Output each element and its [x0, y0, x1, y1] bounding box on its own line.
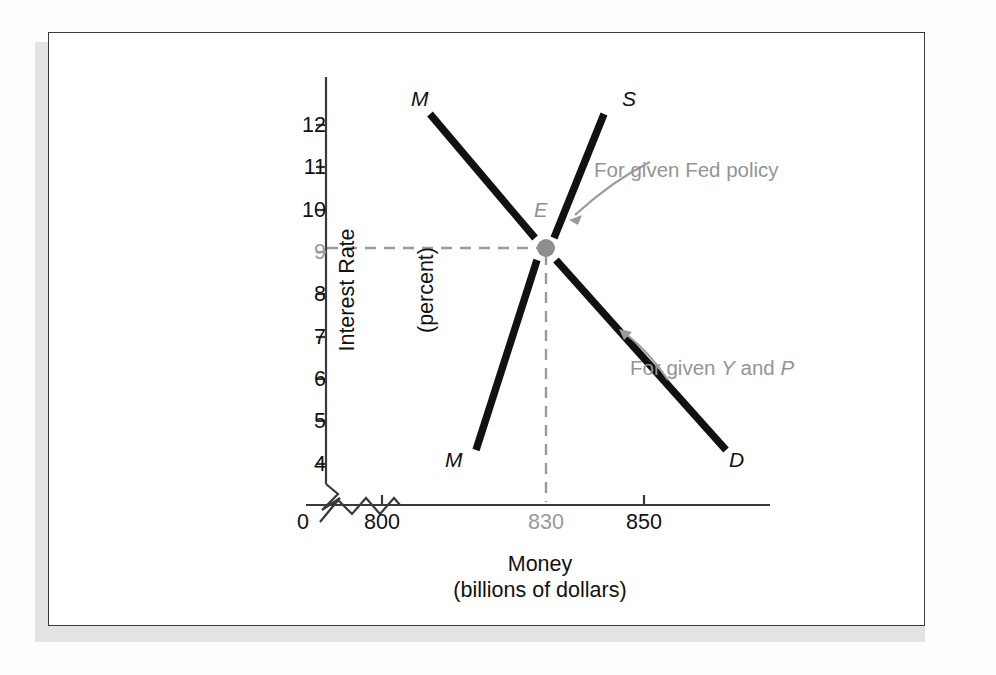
income-price-annotation-run-0: For given — [630, 356, 721, 379]
x-tick-label-830: 830 — [516, 510, 576, 535]
x-axis-ticks — [382, 495, 644, 505]
income-price-annotation-text: For given Y and P — [630, 356, 794, 380]
y-axis-title: Interest Rate (percent) — [246, 160, 528, 420]
x-origin-label: 0 — [288, 510, 318, 535]
income-price-annotation-run-2: and — [735, 356, 781, 379]
income-price-annotation-run-1: Y — [721, 356, 735, 379]
y-axis-title-main: Interest Rate — [334, 160, 360, 420]
y-tick-label-4: 4 — [288, 452, 326, 477]
y-tick-label-12: 12 — [288, 113, 326, 138]
fed-policy-arrowhead — [569, 215, 582, 225]
x-tick-label-850: 850 — [614, 510, 674, 535]
x-axis-title-sub: (billions of dollars) — [390, 577, 690, 603]
fed-policy-annotation-text: For given Fed policy — [594, 158, 779, 182]
y-axis-title-sub: (percent) — [413, 160, 439, 420]
money-supply-curve-bottom-label: M — [445, 448, 463, 472]
money-demand-curve-bottom-label: D — [729, 448, 744, 472]
money-demand-curve — [556, 260, 726, 450]
equilibrium-point-dot — [537, 239, 555, 257]
money-supply-curve-top-label: S — [622, 87, 636, 111]
equilibrium-point-label: E — [534, 199, 547, 222]
x-axis-title-main: Money — [390, 551, 690, 577]
x-axis-title: Money (billions of dollars) — [390, 551, 690, 603]
x-tick-label-800: 800 — [352, 510, 412, 535]
income-price-annotation-run-3: P — [780, 356, 794, 379]
figure-page: 12 11 10 9 8 7 6 5 4 0 800 830 850 M S M… — [0, 0, 996, 675]
money-demand-curve-top-label: M — [411, 87, 429, 111]
